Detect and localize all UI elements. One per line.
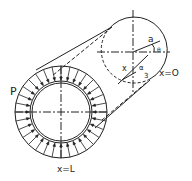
end-circle-x0-hidden <box>101 30 150 83</box>
label-alpha: α <box>139 64 144 72</box>
radius-a <box>133 41 160 52</box>
label-radius-a: a <box>148 34 154 44</box>
tangent-line-top <box>36 28 110 70</box>
hidden-tangent-bottom <box>102 83 146 120</box>
cylinder-pressure-diagram: P x=L x=O a x θ α 3 <box>0 0 192 181</box>
label-x-equals-L: x=L <box>57 164 75 174</box>
label-pressure: P <box>10 85 17 98</box>
label-x-equals-0: x=O <box>159 68 179 78</box>
label-alpha-subscript: 3 <box>144 72 148 80</box>
label-theta: θ <box>157 46 161 53</box>
label-axial-x: x <box>122 64 127 73</box>
theta-arc <box>152 44 154 52</box>
